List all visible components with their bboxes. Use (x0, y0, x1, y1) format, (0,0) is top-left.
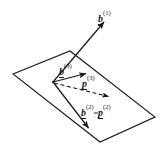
origin-point (52, 81, 54, 83)
vector-diagram-figure: b(1) b(3) p(3) b(2)=p(2) (0, 0, 163, 151)
label-b2-superscript: (2) (86, 103, 94, 110)
label-b3-superscript: (3) (64, 62, 72, 69)
label-vector-b2-equals-p2: b(2)=p(2) (81, 103, 111, 119)
parallelogram-plane (13, 51, 155, 142)
label-vector-b1: b(1) (98, 9, 111, 25)
label-p2-superscript: (2) (103, 103, 111, 110)
label-b1-superscript: (1) (103, 9, 111, 16)
label-vector-p3: p(3) (82, 74, 95, 90)
label-p3-superscript: (3) (87, 74, 95, 81)
label-vector-b3: b(3) (59, 62, 72, 78)
